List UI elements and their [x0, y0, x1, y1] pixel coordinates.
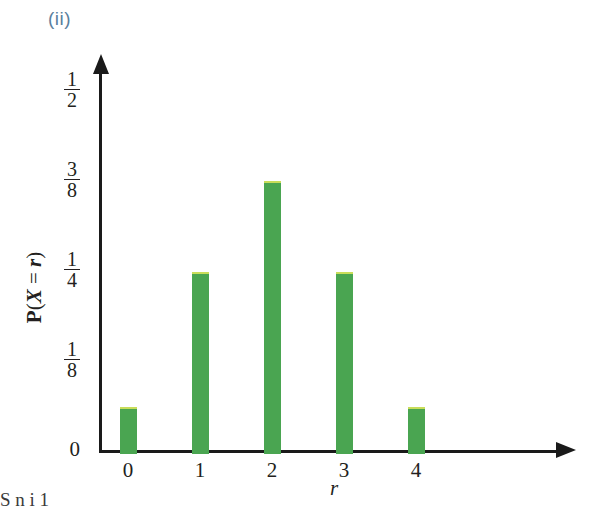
fraction-numerator: 1	[64, 249, 80, 269]
y-tick-three-eighths: 38	[0, 159, 92, 200]
x-tick-4: 4	[396, 458, 436, 483]
fraction: 38	[64, 159, 80, 200]
fraction-denominator: 8	[64, 359, 80, 380]
y-axis-title-open-paren: (	[22, 303, 46, 310]
y-tick-half: 12	[0, 69, 92, 110]
fraction-denominator: 2	[64, 89, 80, 110]
fraction-denominator: 8	[64, 179, 80, 200]
y-axis-arrow-icon	[93, 54, 109, 74]
y-tick-label: 0	[70, 437, 81, 461]
y-axis-title-p: P	[22, 310, 46, 323]
x-tick-0: 0	[108, 458, 148, 483]
fraction: 18	[64, 339, 80, 380]
fraction-numerator: 1	[64, 339, 80, 359]
y-axis-line	[99, 72, 102, 453]
y-tick-eighth: 18	[0, 339, 92, 380]
y-tick-quarter: 14	[0, 249, 92, 290]
figure-canvas: (ii) P(X = r) 123814180 01234 r S n i 1	[0, 0, 605, 507]
fraction-denominator: 4	[64, 269, 80, 290]
x-axis-arrow-icon	[556, 442, 576, 458]
part-label: (ii)	[48, 8, 71, 30]
x-axis-line	[100, 450, 560, 453]
bar-r-1	[192, 272, 209, 455]
bar-r-0	[120, 407, 137, 454]
bar-r-2	[264, 181, 281, 454]
fraction: 14	[64, 249, 80, 290]
caption-fragment: S n i 1	[0, 489, 230, 507]
x-axis-title: r	[330, 476, 338, 501]
x-tick-2: 2	[252, 458, 292, 483]
bar-r-3	[336, 272, 353, 455]
fraction-numerator: 3	[64, 159, 80, 179]
bar-r-4	[408, 407, 425, 454]
y-axis-title-variable: X	[22, 289, 46, 303]
fraction: 12	[64, 69, 80, 110]
y-tick-zero: 0	[0, 439, 92, 460]
fraction-numerator: 1	[64, 69, 80, 89]
x-tick-1: 1	[180, 458, 220, 483]
